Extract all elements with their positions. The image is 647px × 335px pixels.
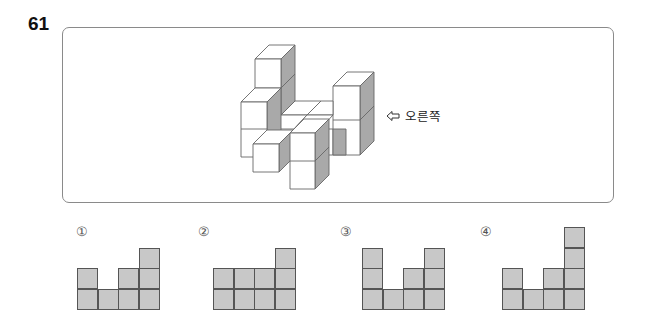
direction-label: 오른쪽: [405, 106, 441, 125]
option-3-label[interactable]: ③: [340, 224, 352, 239]
grid-cell: [564, 227, 585, 248]
grid-cell: [275, 289, 296, 310]
grid-cell: [403, 289, 424, 310]
grid-cell: [403, 268, 424, 289]
grid-cell: [564, 289, 585, 310]
grid-cell: [213, 289, 234, 310]
grid-cell: [98, 289, 119, 310]
option-2-label[interactable]: ②: [198, 224, 210, 239]
grid-cell: [564, 268, 585, 289]
grid-cell: [523, 289, 544, 310]
option-4-label[interactable]: ④: [480, 224, 492, 239]
option-1-label[interactable]: ①: [76, 224, 88, 239]
grid-cell: [118, 268, 139, 289]
grid-cell: [139, 248, 160, 269]
grid-cell: [254, 289, 275, 310]
grid-cell: [139, 289, 160, 310]
grid-cell: [424, 268, 445, 289]
grid-cell: [139, 268, 160, 289]
grid-cell: [234, 289, 255, 310]
grid-cell: [383, 289, 404, 310]
grid-cell: [424, 289, 445, 310]
grid-cell: [502, 289, 523, 310]
cube-front-center: [290, 119, 329, 189]
grid-cell: [213, 268, 234, 289]
direction-indicator: 오른쪽: [386, 106, 441, 125]
grid-cell: [543, 289, 564, 310]
grid-cell: [564, 248, 585, 269]
grid-cell: [543, 268, 564, 289]
grid-cell: [362, 248, 383, 269]
grid-cell: [234, 268, 255, 289]
grid-cell: [77, 268, 98, 289]
left-arrow-outline-icon: [386, 110, 400, 122]
grid-cell: [424, 248, 445, 269]
grid-cell: [275, 248, 296, 269]
grid-cell: [362, 289, 383, 310]
grid-cell: [362, 268, 383, 289]
grid-cell: [275, 268, 296, 289]
grid-cell: [118, 289, 139, 310]
grid-cell: [77, 289, 98, 310]
grid-cell: [502, 268, 523, 289]
grid-cell: [254, 268, 275, 289]
